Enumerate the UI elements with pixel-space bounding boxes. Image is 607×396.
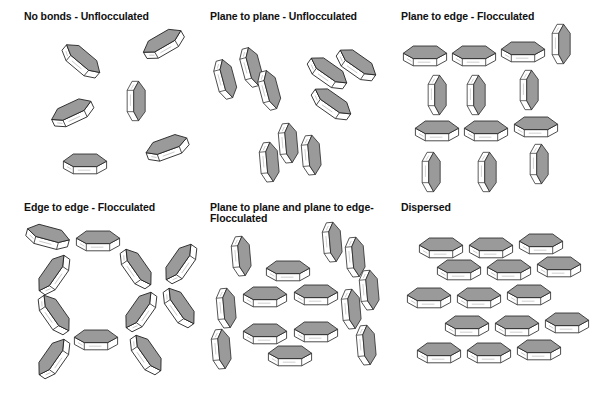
clay-particle bbox=[545, 313, 588, 333]
clay-particle bbox=[255, 69, 283, 112]
clay-particle bbox=[33, 335, 74, 382]
clay-particle bbox=[469, 238, 512, 258]
clay-particle bbox=[321, 222, 342, 263]
clay-particle bbox=[501, 42, 544, 62]
clay-particle bbox=[230, 236, 251, 277]
panel-no-bonds bbox=[49, 24, 191, 173]
clay-particle bbox=[160, 240, 201, 287]
clay-particle bbox=[464, 121, 507, 141]
clay-particle bbox=[552, 24, 570, 63]
clay-particle bbox=[457, 288, 500, 308]
clay-particle bbox=[294, 322, 337, 342]
clay-particle bbox=[519, 234, 562, 254]
clay-particle bbox=[243, 287, 286, 307]
clay-particle bbox=[507, 285, 550, 305]
panel-title-plane-to-plane-and-plane-to-edge: Plane to plane and plane to edge- Floccu… bbox=[210, 202, 374, 224]
clay-particle bbox=[407, 288, 450, 308]
panel-title-plane-to-edge-flocculated: Plane to edge - Flocculated bbox=[401, 11, 534, 22]
clay-particle bbox=[116, 245, 157, 292]
clay-particle bbox=[355, 325, 376, 366]
clay-particle bbox=[120, 288, 161, 335]
clay-particle bbox=[76, 231, 119, 251]
clay-particle bbox=[300, 135, 321, 176]
panel-title-plane-to-plane-unflocculated: Plane to plane - Unflocculated bbox=[210, 11, 357, 22]
clay-particle bbox=[415, 121, 458, 141]
clay-particle bbox=[422, 152, 440, 191]
clay-particle bbox=[530, 144, 548, 183]
clay-particle bbox=[520, 70, 538, 109]
clay-particle bbox=[258, 142, 279, 183]
panel-plane-to-plane-and-plane-to-edge bbox=[210, 222, 379, 370]
clay-particle bbox=[487, 260, 530, 280]
panel-title-edge-to-edge-flocculated: Edge to edge - Flocculated bbox=[24, 202, 155, 213]
clay-particle bbox=[445, 316, 488, 336]
clay-particle bbox=[495, 316, 538, 336]
clay-particle bbox=[428, 75, 446, 114]
clay-particle bbox=[340, 289, 361, 330]
panel-title-no-bonds: No bonds - Unflocculated bbox=[24, 11, 149, 22]
panel-plane-to-edge-flocculated bbox=[403, 24, 570, 191]
clay-particle bbox=[24, 222, 71, 252]
clay-particle bbox=[452, 46, 495, 66]
clay-particle bbox=[159, 284, 200, 331]
clay-particle bbox=[266, 261, 309, 281]
clay-particle bbox=[517, 340, 560, 360]
clay-particle bbox=[467, 75, 485, 114]
clay-particle bbox=[344, 237, 365, 278]
clay-particle bbox=[211, 58, 239, 101]
clay-particle bbox=[140, 24, 187, 63]
clay-particle bbox=[417, 343, 460, 363]
clay-particle bbox=[514, 117, 557, 137]
clay-particle bbox=[210, 329, 231, 370]
clay-particle bbox=[33, 251, 74, 298]
panel-dispersed bbox=[407, 234, 588, 363]
clay-particle bbox=[268, 346, 311, 366]
panel-title-dispersed: Dispersed bbox=[401, 202, 451, 213]
clay-particle bbox=[478, 152, 496, 191]
clay-particle bbox=[49, 95, 97, 131]
panel-plane-to-plane-unflocculated bbox=[211, 44, 379, 182]
clay-particle bbox=[294, 285, 337, 305]
clay-particle bbox=[243, 324, 286, 344]
clay-particle bbox=[437, 260, 480, 280]
panel-edge-to-edge-flocculated bbox=[24, 222, 201, 382]
particle-diagram-canvas bbox=[0, 0, 607, 396]
clay-particle bbox=[74, 330, 117, 350]
clay-particle bbox=[419, 238, 462, 258]
clay-particle bbox=[467, 343, 510, 363]
clay-particle bbox=[127, 81, 145, 120]
clay-particle bbox=[126, 331, 167, 378]
clay-particle bbox=[537, 257, 580, 277]
clay-particle bbox=[63, 154, 106, 174]
clay-particle bbox=[403, 46, 446, 66]
clay-particle bbox=[59, 39, 105, 82]
clay-particle bbox=[215, 288, 236, 329]
clay-particle bbox=[34, 291, 75, 338]
clay-particle bbox=[277, 123, 298, 164]
clay-particle bbox=[144, 131, 191, 164]
clay-particle bbox=[308, 83, 355, 124]
clay-particle bbox=[358, 270, 379, 311]
